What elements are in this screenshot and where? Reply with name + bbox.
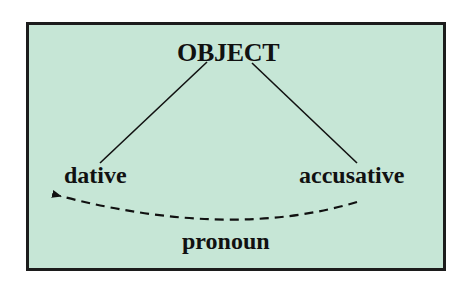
- pronoun-movement-arrow: [60, 196, 357, 220]
- accusative-label: accusative: [299, 163, 404, 187]
- pronoun-label: pronoun: [182, 229, 270, 253]
- edge-object-dative: [100, 62, 207, 163]
- dative-label: dative: [64, 163, 127, 187]
- edge-object-accusative: [252, 63, 357, 163]
- object-label: OBJECT: [177, 40, 279, 66]
